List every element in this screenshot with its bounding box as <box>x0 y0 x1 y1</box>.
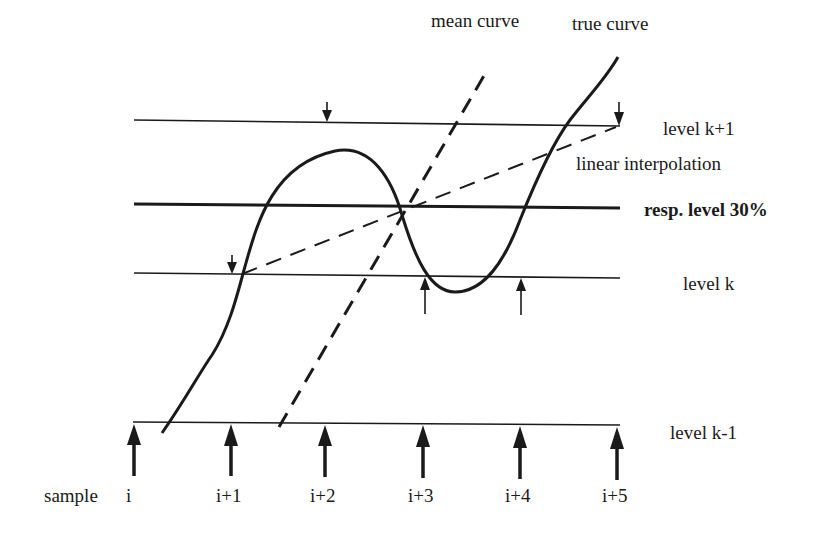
level-k-line <box>134 273 620 278</box>
up-arrow-icon <box>516 278 526 315</box>
true-curve <box>162 57 618 433</box>
sample-prefix-label: sample <box>44 485 98 506</box>
mean-curve-label: mean curve <box>431 10 519 31</box>
linear-interpolation-label: linear interpolation <box>576 153 722 174</box>
sample-tick-label: i+3 <box>408 485 434 506</box>
sample-tick-label: i+4 <box>505 485 531 506</box>
sample-arrow-icon <box>610 427 624 480</box>
sample-arrow-icon <box>513 426 527 479</box>
sample-arrow-icon <box>127 424 141 476</box>
level-k-label: level k <box>683 273 735 294</box>
mean-curve-line <box>279 74 485 427</box>
sample-arrow-icon <box>318 425 332 477</box>
level-k-plus-1-label: level k+1 <box>663 118 734 139</box>
sample-tick-label: i+1 <box>216 485 242 506</box>
sample-tick-label: i+2 <box>310 485 336 506</box>
down-arrow-icon <box>227 255 237 274</box>
sample-tick-label: i <box>126 485 131 506</box>
response-level-label: resp. level 30% <box>644 199 768 220</box>
level-k-minus-1-line <box>133 422 620 425</box>
sample-tick-label: i+5 <box>602 485 628 506</box>
response-level-interpolation-diagram: mean curve true curve level k+1 linear i… <box>0 0 830 542</box>
up-arrow-icon <box>420 277 430 314</box>
response-level-line <box>134 204 620 208</box>
level-k-plus-1-line <box>134 120 620 126</box>
down-arrow-icon <box>614 102 624 126</box>
true-curve-label: true curve <box>572 13 648 34</box>
level-k-minus-1-label: level k-1 <box>670 422 737 443</box>
sample-arrow-icon <box>416 425 430 478</box>
sample-arrow-icon <box>224 424 238 476</box>
linear-interpolation-line <box>242 127 616 274</box>
down-arrow-icon <box>322 102 332 122</box>
